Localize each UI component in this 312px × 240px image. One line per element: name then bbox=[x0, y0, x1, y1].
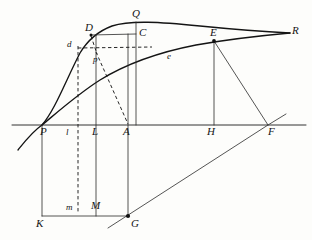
figure-canvas: Q D C E R d p e P l L A H F m M K G bbox=[0, 0, 312, 240]
label-D: D bbox=[85, 22, 93, 33]
label-C: C bbox=[139, 27, 146, 38]
dashed-horizontal-d bbox=[78, 47, 152, 48]
geometry-svg bbox=[0, 0, 312, 240]
label-p: p bbox=[93, 55, 98, 64]
label-d: d bbox=[67, 40, 72, 49]
dashed-segment-pA bbox=[96, 52, 128, 124]
label-K: K bbox=[36, 218, 43, 229]
label-H: H bbox=[207, 126, 215, 137]
node-dot-G bbox=[126, 214, 130, 218]
label-M: M bbox=[91, 200, 100, 211]
label-F: F bbox=[268, 126, 275, 137]
label-G: G bbox=[131, 218, 139, 229]
segment-EF bbox=[214, 41, 268, 125]
label-Q: Q bbox=[132, 8, 140, 19]
oblique-GF bbox=[108, 114, 286, 228]
label-P: P bbox=[40, 126, 47, 137]
label-l: l bbox=[66, 128, 69, 137]
label-m: m bbox=[66, 203, 73, 212]
node-dot-D bbox=[90, 34, 93, 37]
label-A: A bbox=[123, 126, 130, 137]
label-e: e bbox=[167, 52, 171, 61]
upper-curve-PDQR bbox=[18, 22, 290, 150]
label-E: E bbox=[210, 27, 217, 38]
label-R: R bbox=[292, 25, 299, 36]
lower-curve-PeER bbox=[42, 33, 290, 125]
label-L: L bbox=[92, 126, 98, 137]
node-dot-E bbox=[212, 39, 216, 43]
